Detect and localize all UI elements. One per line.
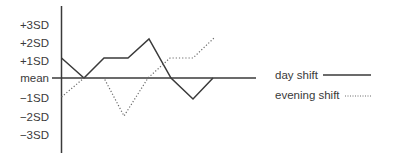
y-tick-minus3sd: −3SD <box>20 128 49 142</box>
y-tick-minus2sd: −2SD <box>20 110 49 124</box>
day-shift-line <box>62 39 214 99</box>
y-tick-mean: mean <box>20 71 49 85</box>
y-tick-plus1sd: +1SD <box>20 54 49 68</box>
control-chart <box>0 0 394 155</box>
y-tick-plus2sd: +2SD <box>20 36 49 50</box>
legend-day-shift: day shift <box>275 68 318 82</box>
y-tick-minus1sd: −1SD <box>20 91 49 105</box>
y-tick-plus3sd: +3SD <box>20 18 49 32</box>
legend-evening-shift: evening shift <box>275 88 340 102</box>
